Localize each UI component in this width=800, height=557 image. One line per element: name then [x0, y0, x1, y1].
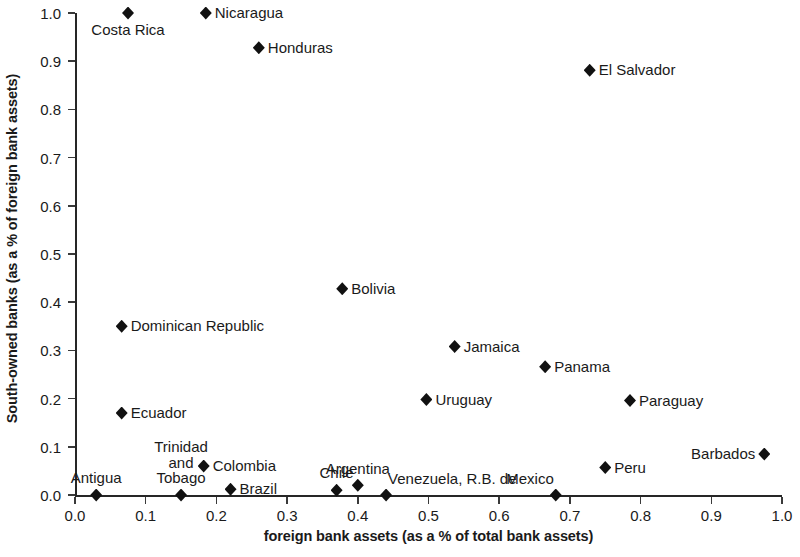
diamond-marker-icon [175, 489, 187, 502]
diamond-marker-icon [539, 360, 551, 373]
diamond-marker-icon [420, 393, 432, 406]
y-tick-label: 0.3 [40, 342, 61, 359]
diamond-marker-icon [336, 282, 348, 295]
y-tick-label: 1.0 [40, 5, 61, 22]
y-tick-label: 0.1 [40, 438, 61, 455]
x-tick [428, 497, 430, 504]
x-tick [711, 497, 713, 504]
y-tick-label: 0.9 [40, 53, 61, 70]
data-point-label: Costa Rica [91, 22, 164, 38]
data-point-label: Honduras [268, 40, 333, 56]
y-axis-line [75, 13, 77, 497]
y-tick-label: 0.0 [40, 487, 61, 504]
diamond-marker-icon [550, 489, 562, 502]
y-tick [68, 446, 75, 448]
y-tick-label: 0.2 [40, 390, 61, 407]
y-tick [68, 109, 75, 111]
x-tick [498, 497, 500, 504]
y-tick [68, 350, 75, 352]
y-tick [68, 60, 75, 62]
data-point-label: Barbados [691, 446, 755, 462]
y-axis-title: South-owned banks (as a % of foreign ban… [0, 0, 24, 497]
y-tick [68, 253, 75, 255]
x-tick [216, 497, 218, 504]
x-tick-label: 0.9 [701, 507, 722, 524]
data-point-label: Jamaica [464, 339, 520, 355]
data-point-label: Paraguay [639, 393, 703, 409]
x-tick-label: 0.6 [489, 507, 510, 524]
diamond-marker-icon [624, 394, 636, 407]
x-axis-title: foreign bank assets (as a % of total ban… [75, 528, 782, 544]
diamond-marker-icon [584, 64, 596, 77]
x-tick-label: 0.0 [65, 507, 86, 524]
y-tick-label: 0.8 [40, 101, 61, 118]
data-point-label: Panama [554, 359, 610, 375]
x-tick-label: 0.2 [206, 507, 227, 524]
y-tick [68, 398, 75, 400]
x-tick [640, 497, 642, 504]
x-tick-label: 0.1 [135, 507, 156, 524]
data-point-label: Peru [614, 460, 646, 476]
data-point-label: Nicaragua [215, 5, 283, 21]
data-point-label: Uruguay [435, 392, 492, 408]
plot-area: 0.00.10.20.30.40.50.60.70.80.91.0 0.00.1… [75, 13, 782, 496]
diamond-marker-icon [599, 461, 611, 474]
x-tick [569, 497, 571, 504]
data-point-label: El Salvador [599, 62, 676, 78]
y-tick [68, 157, 75, 159]
diamond-marker-icon [200, 7, 212, 20]
diamond-marker-icon [122, 7, 134, 20]
x-tick-label: 0.5 [418, 507, 439, 524]
data-point-label: Antigua [71, 470, 122, 486]
x-tick [357, 497, 359, 504]
diamond-marker-icon [90, 489, 102, 502]
y-tick-label: 0.7 [40, 149, 61, 166]
x-tick-label: 0.4 [347, 507, 368, 524]
data-point-label: Venezuela, R.B. de [388, 471, 516, 487]
diamond-marker-icon [253, 41, 265, 54]
y-tick [68, 205, 75, 207]
diamond-marker-icon [449, 340, 461, 353]
diamond-marker-icon [380, 489, 392, 502]
data-point-label: Mexico [506, 471, 554, 487]
diamond-marker-icon [116, 407, 128, 420]
diamond-marker-icon [758, 448, 770, 461]
x-tick-label: 1.0 [772, 507, 793, 524]
y-tick [68, 494, 75, 496]
y-tick-label: 0.4 [40, 294, 61, 311]
data-point-label: Colombia [213, 458, 276, 474]
x-tick [145, 497, 147, 504]
data-point-label: Ecuador [131, 405, 187, 421]
data-point-label: Brazil [240, 481, 278, 497]
y-tick-label: 0.5 [40, 246, 61, 263]
data-point-label: Bolivia [351, 281, 395, 297]
x-tick-label: 0.3 [277, 507, 298, 524]
x-tick-label: 0.7 [559, 507, 580, 524]
data-point-label: Dominican Republic [131, 318, 264, 334]
data-point-label: Chile [319, 465, 353, 481]
x-tick [286, 497, 288, 504]
data-point-label: TrinidadandTobago [154, 439, 208, 486]
x-tick-label: 0.8 [630, 507, 651, 524]
y-tick-label: 0.6 [40, 197, 61, 214]
diamond-marker-icon [225, 483, 237, 496]
diamond-marker-icon [116, 320, 128, 333]
y-tick [68, 301, 75, 303]
x-tick [781, 497, 783, 504]
x-tick [74, 497, 76, 504]
scatter-chart-figure: South-owned banks (as a % of foreign ban… [0, 0, 800, 557]
y-tick [68, 12, 75, 14]
